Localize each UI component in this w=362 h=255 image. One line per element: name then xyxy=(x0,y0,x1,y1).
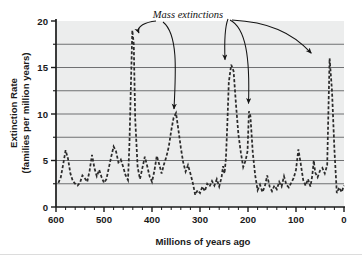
y-tick-label: 5 xyxy=(43,155,49,166)
y-tick-label: 10 xyxy=(37,109,48,120)
x-tick-label: 0 xyxy=(341,214,346,225)
y-tick-label: 15 xyxy=(37,62,48,73)
x-tick-label: 200 xyxy=(240,214,256,225)
x-tick-label: 300 xyxy=(192,214,208,225)
extinction-rate-chart: 05101520 6005004003002001000 Mass extinc… xyxy=(0,0,362,255)
chart-figure: 05101520 6005004003002001000 Mass extinc… xyxy=(0,0,362,255)
x-tick-label: 100 xyxy=(288,214,304,225)
x-tick-label: 400 xyxy=(144,214,160,225)
y-tick-label: 20 xyxy=(37,16,48,27)
y-axis-title-line1: Extinction Rate xyxy=(8,78,19,148)
x-tick-label: 600 xyxy=(48,214,64,225)
y-axis-title-line2: (families per million years) xyxy=(20,52,31,173)
x-tick-label: 500 xyxy=(96,214,112,225)
y-tick-label: 0 xyxy=(43,202,48,213)
x-axis-title: Millions of years ago xyxy=(156,236,251,247)
mass-extinctions-annotation: Mass extinctions xyxy=(152,9,223,20)
